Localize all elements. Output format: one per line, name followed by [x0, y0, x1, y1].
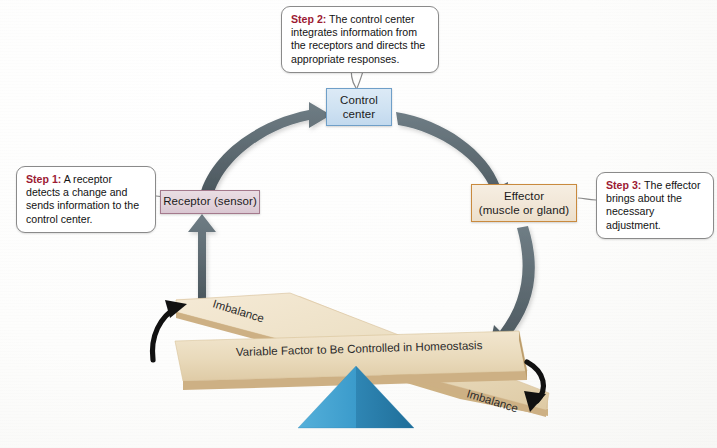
step-2-label: Step 2:	[291, 13, 326, 25]
callout-step-2: Step 2: The control center integrates in…	[281, 6, 439, 73]
diagram-canvas: Imbalance Imbalance Variable Factor to B…	[0, 0, 717, 448]
receptor-label: Receptor (sensor)	[161, 195, 259, 209]
control-center-box[interactable]: Control center	[326, 88, 392, 126]
effector-label-line1: Effector	[472, 190, 576, 204]
effector-box[interactable]: Effector (muscle or gland)	[471, 184, 577, 222]
arrow-receptor-to-control-center	[201, 102, 331, 193]
control-center-label-line2: center	[327, 108, 391, 122]
effector-label-line2: (muscle or gland)	[472, 204, 576, 218]
step-1-label: Step 1:	[26, 173, 61, 185]
control-center-label-line1: Control	[327, 94, 391, 108]
step-3-label: Step 3:	[606, 179, 641, 191]
receptor-box[interactable]: Receptor (sensor)	[160, 190, 260, 214]
callout-leader-lines	[156, 62, 596, 201]
arrow-variable-factor-to-receptor	[188, 214, 216, 300]
callout-step-1: Step 1: A receptor detects a change and …	[16, 166, 156, 233]
callout-step-3: Step 3: The effector brings about the ne…	[596, 172, 714, 239]
